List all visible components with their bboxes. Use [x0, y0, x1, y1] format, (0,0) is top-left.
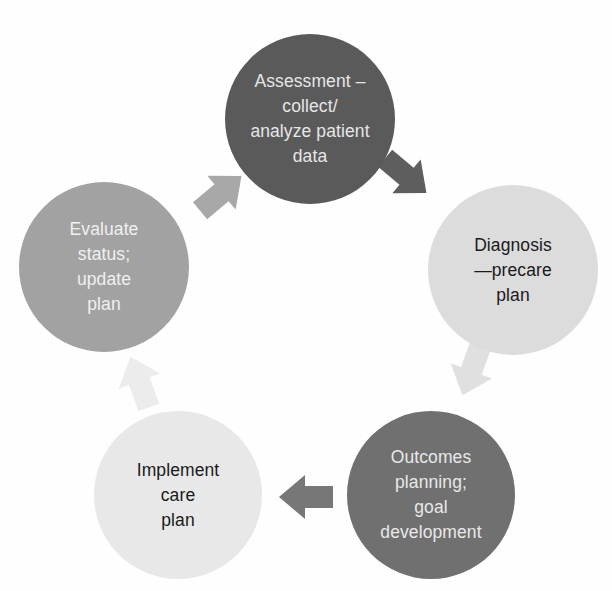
nursing-process-cycle-diagram: Assessment – collect/ analyze patient da…: [0, 0, 612, 591]
node-assessment: Assessment – collect/ analyze patient da…: [225, 34, 395, 204]
label-line: update: [70, 267, 139, 292]
node-assessment-label: Assessment – collect/ analyze patient da…: [250, 69, 369, 169]
label-line: Evaluate: [70, 217, 139, 242]
label-line: —precare: [474, 258, 552, 283]
label-line: Diagnosis: [474, 233, 552, 258]
label-line: care: [137, 483, 220, 508]
label-line: Implement: [137, 458, 220, 483]
label-line: Outcomes: [380, 445, 481, 470]
label-line: Assessment –: [250, 69, 369, 94]
node-diagnosis: Diagnosis —precare plan: [428, 185, 598, 355]
node-implement: Implement care plan: [94, 411, 262, 579]
node-evaluate: Evaluate status; update plan: [19, 182, 189, 352]
label-line: plan: [137, 508, 220, 533]
node-implement-label: Implement care plan: [137, 458, 220, 533]
label-line: data: [250, 144, 369, 169]
label-line: status;: [70, 242, 139, 267]
label-line: plan: [474, 283, 552, 308]
arrow-implement-to-evaluate-icon: [106, 346, 174, 419]
node-evaluate-label: Evaluate status; update plan: [70, 217, 139, 317]
label-line: plan: [70, 292, 139, 317]
label-line: planning;: [380, 470, 481, 495]
node-diagnosis-label: Diagnosis —precare plan: [474, 233, 552, 308]
label-line: collect/: [250, 94, 369, 119]
label-line: analyze patient: [250, 119, 369, 144]
node-outcomes-label: Outcomes planning; goal development: [380, 445, 481, 545]
arrow-outcomes-to-implement-icon: [277, 472, 337, 522]
label-line: development: [380, 520, 481, 545]
label-line: goal: [380, 495, 481, 520]
node-outcomes: Outcomes planning; goal development: [347, 411, 515, 579]
